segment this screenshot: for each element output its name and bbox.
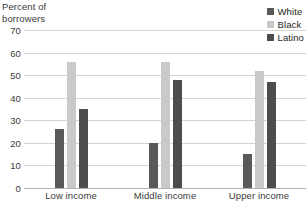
y-axis-tick-label: 30 [10, 115, 21, 126]
legend-item-white[interactable]: White [267, 6, 304, 17]
legend-label: White [278, 6, 303, 17]
bar-group [212, 30, 306, 188]
x-axis-labels: Low incomeMiddle incomeUpper income [24, 190, 306, 208]
x-axis-label: Low income [24, 190, 118, 208]
bar-chart: Percent of borrowers WhiteBlackLatino 70… [0, 0, 308, 211]
bar-latino-middle[interactable] [173, 80, 182, 188]
legend-swatch-icon [267, 34, 274, 41]
y-axis-ticks: 706050403020100 [0, 30, 24, 188]
bar-group-bars [118, 30, 212, 188]
bar-group [118, 30, 212, 188]
gridline [24, 188, 306, 189]
plot-area [24, 30, 306, 188]
legend-label: Latino [278, 32, 304, 43]
legend-swatch-icon [267, 21, 274, 28]
y-axis-tick-label: 40 [10, 92, 21, 103]
bar-latino-low[interactable] [79, 109, 88, 188]
x-axis-label: Middle income [118, 190, 212, 208]
bar-black-upper[interactable] [255, 71, 264, 188]
legend-item-black[interactable]: Black [267, 19, 304, 30]
legend-item-latino[interactable]: Latino [267, 32, 304, 43]
bar-groups [24, 30, 306, 188]
y-axis-tick-label: 20 [10, 137, 21, 148]
y-axis-title: Percent of borrowers [2, 1, 46, 24]
bar-white-low[interactable] [55, 129, 64, 188]
x-axis-label: Upper income [212, 190, 306, 208]
bar-black-low[interactable] [67, 62, 76, 188]
bar-group-bars [212, 30, 306, 188]
bar-black-middle[interactable] [161, 62, 170, 188]
bar-latino-upper[interactable] [267, 82, 276, 188]
bar-white-upper[interactable] [243, 154, 252, 188]
bar-white-middle[interactable] [149, 143, 158, 188]
y-axis-tick-label: 70 [10, 25, 21, 36]
y-axis-tick-label: 60 [10, 47, 21, 58]
y-axis-tick-label: 10 [10, 160, 21, 171]
y-axis-tick-label: 50 [10, 70, 21, 81]
bar-group [24, 30, 118, 188]
bar-group-bars [24, 30, 118, 188]
y-axis-tick-label: 0 [16, 183, 21, 194]
legend-label: Black [278, 19, 302, 30]
chart-legend: WhiteBlackLatino [267, 6, 304, 43]
legend-swatch-icon [267, 8, 274, 15]
